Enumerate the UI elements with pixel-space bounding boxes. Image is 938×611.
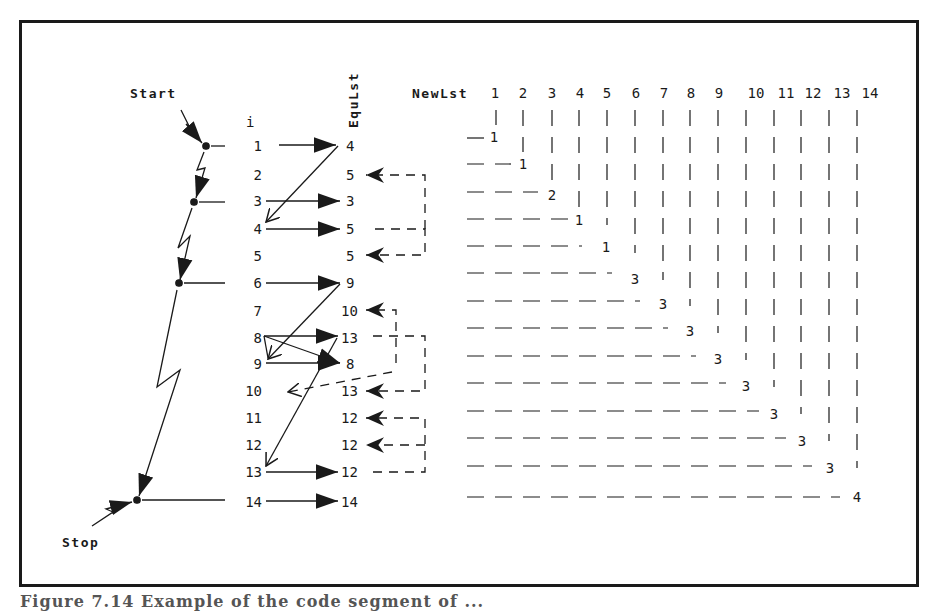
scan-dot-icon xyxy=(134,497,140,503)
equlst-cell: 12 xyxy=(341,464,358,480)
index-cell: 3 xyxy=(254,193,262,209)
equlst-cell: 8 xyxy=(346,356,354,372)
index-cell: 6 xyxy=(254,275,262,291)
index-cell: 7 xyxy=(254,303,262,319)
newlst-value: 1 xyxy=(575,212,583,228)
equlst-cell: 10 xyxy=(341,303,358,319)
index-column: 1 2 3 4 5 6 7 8 9 10 11 12 13 14 xyxy=(245,138,262,510)
arrow-9-to-i9 xyxy=(268,284,340,359)
index-cell: 5 xyxy=(254,248,262,264)
newlst-col-header: 9 xyxy=(715,85,723,101)
index-cell: 12 xyxy=(245,437,262,453)
newlst-value: 3 xyxy=(742,378,750,394)
newlst-value: 3 xyxy=(686,323,694,339)
newlst-header: NewLst xyxy=(412,86,468,101)
equlst-cell: 12 xyxy=(341,410,358,426)
newlst-column-headers: 1 2 3 4 5 6 7 8 9 10 11 12 13 14 xyxy=(491,85,879,101)
equlst-cell: 3 xyxy=(346,193,354,209)
equlst-cell: 14 xyxy=(341,494,358,510)
arrow-8-tick xyxy=(264,336,268,358)
scan-dot-icon xyxy=(176,280,182,286)
newlst-column-lines xyxy=(496,110,857,468)
index-cell: 11 xyxy=(245,410,262,426)
index-cell: 8 xyxy=(254,330,262,346)
newlst-col-header: 14 xyxy=(862,85,879,101)
index-cell: 10 xyxy=(245,383,262,399)
scan-arrow-icon xyxy=(196,152,205,198)
newlst-value: 1 xyxy=(490,129,498,145)
start-arrow-icon xyxy=(181,110,202,143)
index-cell: 4 xyxy=(254,221,262,237)
equlst-column: 4 5 3 5 5 9 10 13 8 13 12 12 12 14 xyxy=(341,138,358,510)
dash-link-5-to-5b xyxy=(366,229,425,255)
newlst-col-header: 3 xyxy=(548,85,556,101)
scan-dot-icon xyxy=(203,143,209,149)
index-header: i xyxy=(246,114,254,130)
newlst-col-header: 8 xyxy=(687,85,695,101)
equlst-cell: 5 xyxy=(346,221,354,237)
newlst-value: 3 xyxy=(714,351,722,367)
scan-dot-icon xyxy=(191,199,197,205)
dash-link-to-i10 xyxy=(288,372,392,392)
dashed-arrows xyxy=(288,175,425,472)
arrow-13-to-i13 xyxy=(266,338,337,466)
newlst-value: 4 xyxy=(853,489,861,505)
newlst-value: 2 xyxy=(548,187,556,203)
equlst-cell: 13 xyxy=(341,330,358,346)
index-cell: 13 xyxy=(245,464,262,480)
stop-label: Stop xyxy=(62,535,99,550)
equlst-cell: 13 xyxy=(341,383,358,399)
equlst-cell: 5 xyxy=(346,167,354,183)
equlst-cell: 12 xyxy=(341,437,358,453)
arrow-4-to-i4 xyxy=(266,146,338,222)
newlst-col-header: 11 xyxy=(778,85,795,101)
equlst-cell: 5 xyxy=(346,248,354,264)
newlst-col-header: 13 xyxy=(834,85,851,101)
solid-arrows xyxy=(264,145,340,501)
newlst-col-header: 6 xyxy=(632,85,640,101)
newlst-value: 1 xyxy=(519,156,527,172)
equlst-cell: 9 xyxy=(346,275,354,291)
newlst-value: 3 xyxy=(770,406,778,422)
newlst-table: 1 2 3 4 5 6 7 8 9 10 11 12 13 14 xyxy=(467,85,878,505)
newlst-value: 1 xyxy=(602,239,610,255)
newlst-col-header: 2 xyxy=(519,85,527,101)
newlst-values: 1 1 2 1 1 3 3 3 3 3 3 3 3 4 xyxy=(490,129,861,505)
start-label: Start xyxy=(130,86,177,101)
newlst-col-header: 12 xyxy=(805,85,822,101)
figure-caption: Figure 7.14 Example of the code segment … xyxy=(20,592,484,611)
newlst-col-header: 1 xyxy=(491,85,499,101)
newlst-col-header: 7 xyxy=(660,85,668,101)
newlst-value: 3 xyxy=(631,271,639,287)
index-cell: 14 xyxy=(245,494,262,510)
newlst-col-header: 10 xyxy=(748,85,765,101)
scan-path xyxy=(92,110,225,526)
newlst-value: 3 xyxy=(659,296,667,312)
equlst-cell: 4 xyxy=(346,138,354,154)
newlst-col-header: 4 xyxy=(576,85,584,101)
newlst-row-lines xyxy=(467,138,840,497)
stop-arrow-icon xyxy=(92,502,132,526)
newlst-value: 3 xyxy=(798,433,806,449)
index-cell: 1 xyxy=(254,138,262,154)
scan-arrow-icon xyxy=(139,290,180,496)
scan-arrow-icon xyxy=(178,208,192,280)
index-cell: 9 xyxy=(254,356,262,372)
newlst-col-header: 5 xyxy=(603,85,611,101)
newlst-value: 3 xyxy=(826,460,834,476)
dash-link-5-to-5 xyxy=(366,175,425,229)
equlst-header: EquLst xyxy=(346,72,361,128)
index-cell: 2 xyxy=(254,167,262,183)
arrow-8-to-8 xyxy=(264,336,340,363)
